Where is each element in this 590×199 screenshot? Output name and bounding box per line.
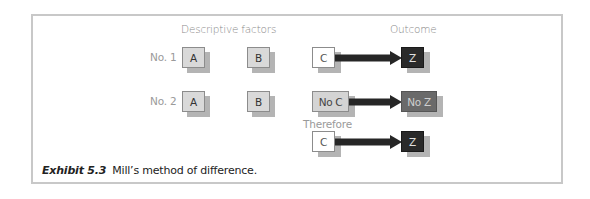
- cause-box-c-conclusion: C: [312, 131, 335, 152]
- factor-box-a-row2: A: [182, 91, 205, 112]
- caption-text: Mill’s method of difference.: [112, 164, 257, 177]
- row-label-no1: No. 1: [150, 51, 176, 63]
- effect-box-z-conclusion: Z: [401, 131, 424, 152]
- arrow-icon: [349, 95, 402, 109]
- therefore-label: Therefore: [303, 118, 352, 130]
- caption-label: Exhibit 5.3: [42, 164, 106, 177]
- effect-box-z-row1: Z: [401, 47, 424, 68]
- row-label-no2: No. 2: [150, 95, 176, 107]
- effect-box-no-z-row2: No Z: [401, 91, 437, 112]
- header-outcome: Outcome: [390, 23, 437, 35]
- exhibit-caption: Exhibit 5.3Mill’s method of difference.: [42, 164, 257, 177]
- header-descriptive-factors: Descriptive factors: [181, 23, 276, 35]
- cause-box-no-c-row2: No C: [312, 91, 349, 112]
- arrow-icon: [335, 51, 402, 65]
- factor-box-a-row1: A: [182, 47, 205, 68]
- exhibit-frame: [31, 14, 563, 184]
- factor-box-b-row2: B: [247, 91, 270, 112]
- factor-box-b-row1: B: [247, 47, 270, 68]
- cause-box-c-row1: C: [312, 47, 335, 68]
- arrow-icon: [335, 135, 402, 149]
